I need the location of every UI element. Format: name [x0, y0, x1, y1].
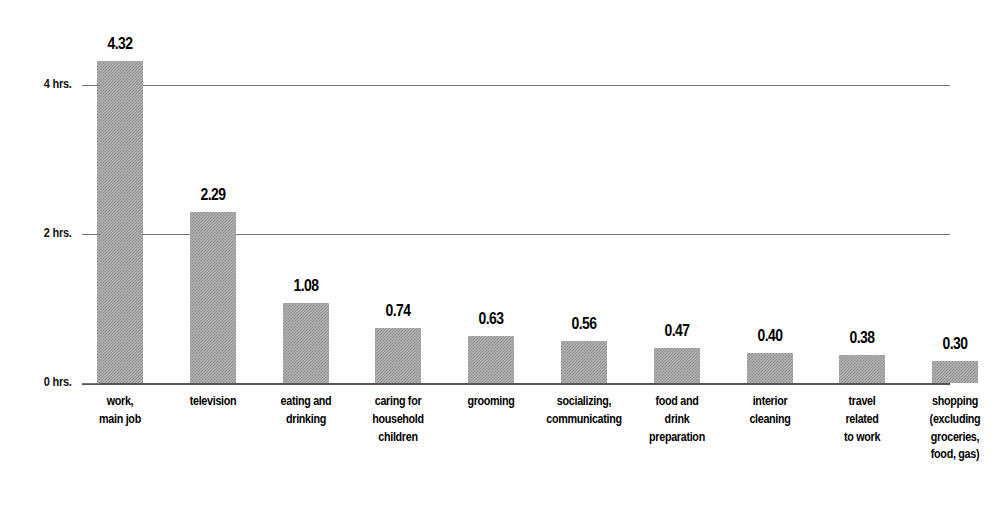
value-label-4: 0.63	[462, 310, 519, 327]
value-label-7: 0.40	[741, 327, 798, 344]
y-axis-label-4hrs: 4 hrs.	[44, 77, 72, 91]
bar-4	[468, 336, 514, 383]
category-label-6: food and drink preparation	[638, 393, 715, 446]
bar-6	[654, 348, 700, 383]
plot-area: 0 hrs.2 hrs.4 hrs.4.322.291.080.740.630.…	[0, 0, 995, 510]
gridline-4hrs	[82, 85, 950, 86]
value-label-3: 0.74	[370, 302, 427, 319]
bar-5	[561, 341, 607, 383]
value-label-1: 2.29	[184, 186, 241, 203]
bar-chart: 0 hrs.2 hrs.4 hrs.4.322.291.080.740.630.…	[0, 0, 995, 510]
category-label-7: interior cleaning	[731, 393, 808, 429]
category-label-4: grooming	[452, 393, 529, 411]
category-label-2: eating and drinking	[267, 393, 344, 429]
value-label-8: 0.38	[834, 329, 891, 346]
category-label-5: socializing, communicating	[545, 393, 622, 429]
bar-7	[747, 353, 793, 383]
category-label-0: work, main job	[81, 393, 158, 429]
value-label-5: 0.56	[555, 315, 612, 332]
bar-2	[283, 303, 329, 383]
axis-baseline	[82, 383, 950, 385]
y-axis-label-0hrs: 0 hrs.	[44, 375, 72, 389]
y-axis-label-2hrs: 2 hrs.	[44, 226, 72, 240]
value-label-6: 0.47	[648, 322, 705, 339]
category-label-9: shopping (excluding groceries, food, gas…	[916, 393, 993, 464]
category-label-1: television	[174, 393, 251, 411]
y-tick-4hrs	[82, 85, 100, 86]
bar-1	[190, 212, 236, 383]
bar-3	[375, 328, 421, 383]
bar-8	[839, 355, 885, 383]
bar-0	[97, 61, 143, 383]
value-label-2: 1.08	[277, 277, 334, 294]
category-label-8: travel related to work	[824, 393, 901, 446]
y-tick-0hrs	[82, 383, 100, 384]
y-tick-2hrs	[82, 234, 100, 235]
value-label-0: 4.32	[91, 35, 148, 52]
bar-9	[932, 361, 978, 383]
category-label-3: caring for household children	[360, 393, 437, 446]
value-label-9: 0.30	[926, 335, 983, 352]
